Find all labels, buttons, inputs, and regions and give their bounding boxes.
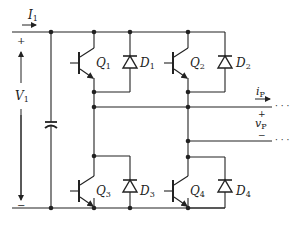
input-current-label: I1 — [28, 9, 38, 23]
output-minus-sign: − — [258, 131, 266, 140]
transistor-q2-icon — [164, 48, 188, 78]
q1-label: Q1 — [96, 57, 111, 71]
junction-dots — [49, 30, 191, 211]
output-current-label: iP — [256, 86, 265, 99]
inverter-circuit-diagram: I1 + V1 − Q1 Q2 Q3 Q4 D1 D2 D3 D4 iP + v… — [0, 0, 303, 236]
d3-label: D3 — [140, 185, 155, 199]
diode-d3-icon — [94, 156, 137, 208]
q4-label: Q4 — [190, 185, 205, 199]
transistor-q4-icon — [164, 176, 188, 206]
input-plus-sign: + — [17, 36, 25, 46]
q2-label: Q2 — [190, 57, 205, 71]
output-continuation-bottom: · · · — [275, 136, 289, 145]
transistor-q3-icon — [70, 176, 94, 206]
d2-label: D2 — [236, 57, 251, 71]
input-minus-sign: − — [17, 201, 25, 211]
transistor-q1-icon — [70, 48, 94, 78]
capacitor-icon — [45, 32, 57, 208]
d4-label: D4 — [236, 185, 251, 199]
input-voltage-label: V1 — [15, 90, 29, 104]
diode-d4-icon — [188, 157, 232, 208]
q3-label: Q3 — [96, 185, 111, 199]
d1-label: D1 — [140, 57, 155, 71]
output-continuation-top: · · · — [275, 102, 289, 111]
